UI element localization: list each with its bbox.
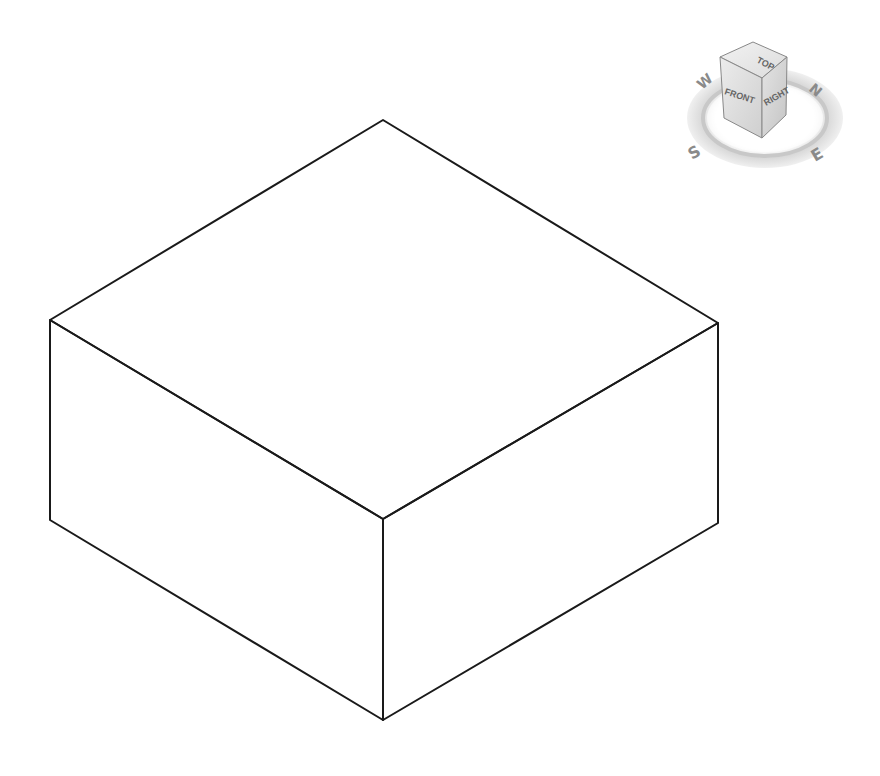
box-right-face[interactable] <box>383 323 718 720</box>
box-top-face[interactable] <box>50 120 718 519</box>
box-left-face[interactable] <box>50 320 383 720</box>
viewcube[interactable]: TOP FRONT RIGHT W N S E <box>680 0 850 180</box>
isometric-box[interactable] <box>50 120 718 720</box>
